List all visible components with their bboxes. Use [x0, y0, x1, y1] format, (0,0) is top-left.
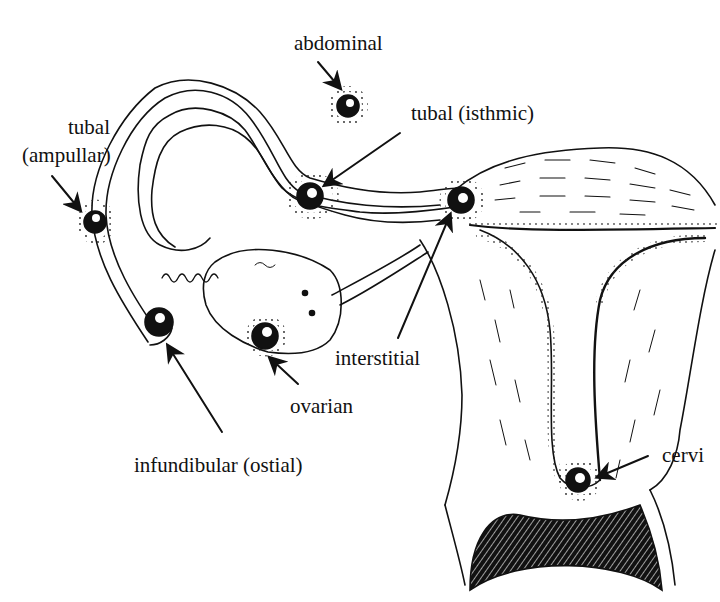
arrow-infundibular	[168, 346, 222, 432]
arrow-tubal-isthmic	[325, 133, 400, 185]
label-ovarian: ovarian	[290, 396, 353, 417]
arrow-cervical	[598, 456, 648, 477]
label-tubal-ampullar-line1: tubal	[68, 117, 110, 138]
gestation-site-cervical	[562, 462, 598, 498]
label-cervical: cervi	[662, 445, 704, 466]
arrow-abdominal	[318, 62, 340, 88]
label-interstitial: interstitial	[335, 348, 420, 369]
arrow-ovarian	[270, 358, 298, 384]
ectopic-pregnancy-diagram: abdominal tubal (isthmic) tubal (ampulla…	[0, 0, 720, 602]
label-tubal-isthmic: tubal (isthmic)	[411, 103, 534, 124]
uterus	[420, 148, 715, 590]
label-infundibular: infundibular (ostial)	[134, 455, 303, 476]
ovary	[203, 245, 428, 354]
arrow-tubal-ampullar	[52, 176, 80, 210]
label-abdominal: abdominal	[294, 33, 383, 54]
gestation-site-infundibular	[145, 308, 173, 345]
arrow-interstitial	[398, 215, 450, 338]
fallopian-tube	[92, 80, 460, 342]
anatomy-illustration	[0, 0, 720, 602]
gestation-site-ovarian	[248, 318, 284, 354]
gestation-site-abdominal	[331, 89, 365, 123]
gestation-site-interstitial	[442, 180, 482, 220]
label-tubal-ampullar-line2: (ampullar)	[22, 145, 111, 166]
